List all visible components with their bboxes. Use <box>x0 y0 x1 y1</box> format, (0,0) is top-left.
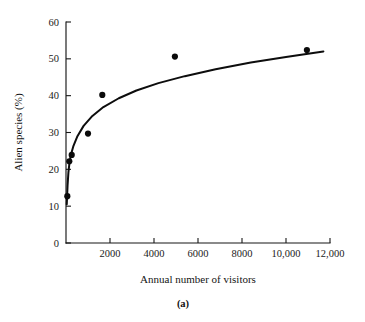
axes-group <box>66 22 330 243</box>
x-tick-label-2000: 2000 <box>100 248 121 259</box>
y-axis-tick-labels: 0102030405060 <box>49 17 60 249</box>
x-axis-ticks <box>110 238 330 243</box>
x-tick-label-6000: 6000 <box>188 248 209 259</box>
data-point <box>99 92 105 98</box>
data-point <box>85 131 91 137</box>
x-axis-title: Annual number of visitors <box>140 273 256 285</box>
figure-panel: 0102030405060 200040006000800010,00012,0… <box>0 0 365 322</box>
y-tick-label-0: 0 <box>54 238 59 249</box>
x-tick-label-8000: 8000 <box>232 248 253 259</box>
y-axis-title: Alien species (%) <box>12 93 25 172</box>
chart-canvas: 0102030405060 200040006000800010,00012,0… <box>0 0 365 322</box>
y-tick-label-60: 60 <box>49 17 60 28</box>
y-axis-ticks <box>66 22 71 243</box>
x-tick-label-10000: 10,000 <box>272 248 301 259</box>
y-tick-label-10: 10 <box>49 201 60 212</box>
data-point <box>69 152 75 158</box>
data-point <box>66 158 72 164</box>
scatter-points <box>64 47 310 199</box>
x-axis-tick-labels: 200040006000800010,00012,000 <box>100 248 345 259</box>
y-tick-label-50: 50 <box>49 53 60 64</box>
y-tick-label-30: 30 <box>49 127 60 138</box>
x-tick-label-4000: 4000 <box>144 248 165 259</box>
y-tick-label-20: 20 <box>49 164 60 175</box>
y-tick-label-40: 40 <box>49 90 60 101</box>
data-point <box>64 193 70 199</box>
data-point <box>304 47 310 53</box>
fitted-curve <box>67 51 324 204</box>
x-tick-label-12000: 12,000 <box>316 248 345 259</box>
panel-caption: (a) <box>177 298 190 310</box>
data-point <box>172 54 178 60</box>
